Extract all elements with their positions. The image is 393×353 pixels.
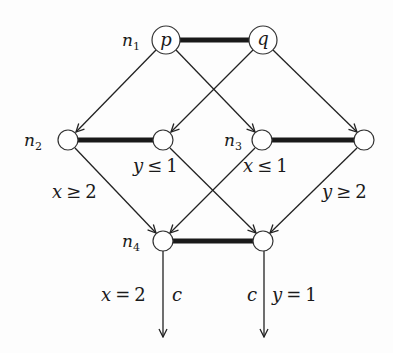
label-c-left: c [172,284,182,305]
node-q-label: q [257,28,269,49]
edge-p-n3a [176,50,255,132]
label-x-ge-2: x≥2 [52,181,97,202]
name-n3: n3 [224,130,242,153]
node-n2a [58,130,78,150]
node-n4b [253,231,273,251]
node-n4a [153,231,173,251]
thick-edges [78,40,354,241]
name-n2: n2 [24,130,42,153]
node-n2b [153,130,173,150]
label-x-eq-2: x=2 [101,284,146,305]
edge-p-n2a [76,50,156,132]
label-y-le-1: y≤1 [132,155,178,176]
name-n4: n4 [122,231,140,254]
node-n3b [354,130,374,150]
node-p-label: p [160,29,172,50]
name-n1: n1 [122,30,140,53]
node-n3a [252,130,272,150]
edge-q-n2b [171,50,253,132]
edge-q-n3b [273,50,357,132]
diagram-canvas: p q n1 n2 n3 n4 x≥2 y≤1 x≤1 y≥2 x=2 c c … [0,0,393,353]
label-y-eq-1: y=1 [271,284,317,305]
label-y-ge-2: y≥2 [321,181,367,202]
label-x-le-1: x≤1 [243,155,288,176]
label-c-right: c [247,284,257,305]
graph-diagram: p q n1 n2 n3 n4 x≥2 y≤1 x≤1 y≥2 x=2 c c … [0,0,393,353]
